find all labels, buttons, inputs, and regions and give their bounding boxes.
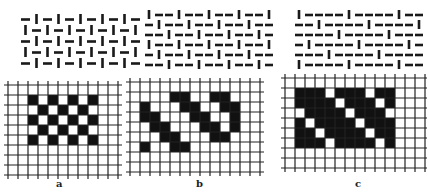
- panel-label-a: a: [56, 178, 62, 189]
- weave-diagram-c: [280, 0, 428, 80]
- point-paper-grid-c: [277, 70, 427, 180]
- weave-diagram-b: [130, 0, 280, 80]
- point-paper-grid-b: [122, 76, 272, 186]
- panel-label-b: b: [196, 178, 203, 189]
- point-paper-grid-a: [0, 78, 130, 188]
- panel-label-c: c: [355, 178, 361, 189]
- weave-diagram-a: [0, 0, 140, 80]
